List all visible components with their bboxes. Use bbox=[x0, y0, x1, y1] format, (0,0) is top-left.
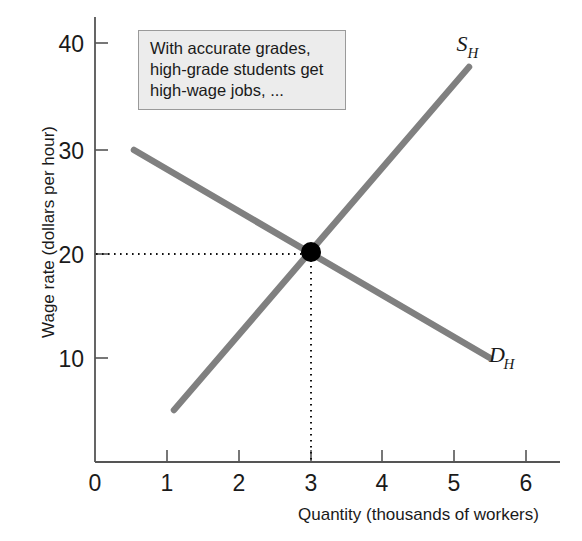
annotation-textbox: With accurate grades, high-grade student… bbox=[138, 30, 346, 110]
x-tick-label-4: 4 bbox=[376, 470, 389, 496]
demand-curve-label-subscript: H bbox=[503, 356, 516, 372]
x-tick-label-5: 5 bbox=[448, 470, 461, 496]
supply-curve-label-subscript: H bbox=[467, 45, 480, 61]
x-axis-title: Quantity (thousands of workers) bbox=[298, 505, 539, 525]
y-tick-label-30: 30 bbox=[58, 138, 84, 164]
y-axis-title: Wage rate (dollars per hour) bbox=[39, 87, 59, 377]
supply-curve-label: S bbox=[457, 31, 468, 56]
x-tick-label-3: 3 bbox=[305, 470, 318, 496]
annotation-line-3: high-wage jobs, ... bbox=[150, 80, 334, 101]
x-tick-label-0: 0 bbox=[89, 470, 102, 496]
equilibrium-point-marker bbox=[301, 242, 321, 262]
supply-curve bbox=[174, 67, 469, 410]
annotation-line-1: With accurate grades, bbox=[150, 38, 334, 59]
demand-curve-label: D bbox=[488, 342, 505, 367]
economics-supply-demand-figure: 40 30 20 10 0 1 2 3 4 5 6 S H D H With a… bbox=[0, 0, 582, 541]
y-tick-label-20: 20 bbox=[58, 242, 84, 268]
y-tick-label-10: 10 bbox=[58, 346, 84, 372]
x-tick-label-1: 1 bbox=[161, 470, 174, 496]
x-tick-label-6: 6 bbox=[520, 470, 533, 496]
annotation-line-2: high-grade students get bbox=[150, 59, 334, 80]
y-tick-label-40: 40 bbox=[58, 31, 84, 57]
x-tick-label-2: 2 bbox=[233, 470, 246, 496]
